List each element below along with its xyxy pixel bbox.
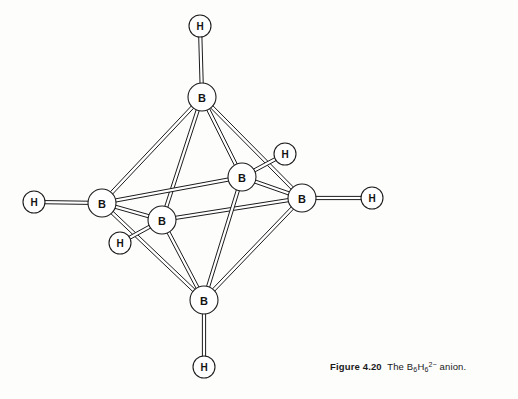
figure-number: Figure 4.20 (330, 361, 382, 372)
bond-core (208, 189, 239, 288)
bond-core (114, 206, 150, 216)
bond-core (166, 109, 198, 208)
atom-circle-b-left[interactable] (88, 189, 116, 217)
bond-edge-line (109, 105, 192, 193)
bond-core (200, 35, 201, 84)
atom-b-back[interactable]: B (228, 163, 256, 191)
atom-circle-h-top[interactable] (189, 15, 211, 37)
bond-b-bottom-b-right (212, 206, 295, 292)
bond-core (213, 207, 294, 291)
bond-b-top-b-front (164, 108, 199, 208)
atom-circle-h-left[interactable] (23, 191, 45, 213)
bond-b-top-b-left (109, 105, 194, 195)
atom-h-right[interactable]: H (361, 187, 383, 209)
atom-h-left[interactable]: H (23, 191, 45, 213)
atom-b-front[interactable]: B (148, 206, 176, 234)
atom-circle-h-right[interactable] (361, 187, 383, 209)
bond-edge-line (209, 189, 240, 288)
atom-h-bottom[interactable]: H (193, 356, 215, 378)
bond-b-left-h-left (43, 201, 89, 205)
figure-caption: Figure 4.20 The B6H62− anion. (330, 358, 516, 376)
bond-b-front-b-left (114, 205, 151, 218)
bond-b-bottom-b-back (206, 188, 240, 288)
atom-circle-b-bottom[interactable] (190, 286, 218, 314)
atom-circle-b-back[interactable] (228, 163, 256, 191)
atom-circle-b-right[interactable] (288, 184, 316, 212)
bond-edge-line (43, 204, 89, 205)
bond-edge-line (167, 109, 199, 208)
cage-bond-layer (109, 105, 294, 293)
atom-b-left[interactable]: B (88, 189, 116, 217)
figure-container: BBBBBBHHHHHH Figure 4.20 The B6H62− anio… (0, 0, 518, 399)
caption-body: The B6H62− anion. (382, 361, 467, 372)
atom-circle-h-front[interactable] (109, 232, 131, 254)
bond-edge-line (214, 208, 295, 292)
atom-b-top[interactable]: B (188, 83, 216, 111)
atom-circle-h-back[interactable] (274, 143, 296, 165)
bond-edge-line (212, 206, 293, 290)
atom-circle-b-front[interactable] (148, 206, 176, 234)
bond-b-left-b-back (114, 178, 230, 203)
bond-edge-line (253, 183, 289, 196)
atom-h-top[interactable]: H (189, 15, 211, 37)
atom-h-front[interactable]: H (109, 232, 131, 254)
atom-circle-b-top[interactable] (188, 83, 216, 111)
atom-circle-h-bottom[interactable] (193, 356, 215, 378)
caption-charge: 2− (428, 361, 436, 368)
bond-b-right-h-right (315, 196, 363, 199)
bond-edge-line (44, 201, 90, 202)
bond-core (43, 202, 89, 203)
atom-h-back[interactable]: H (274, 143, 296, 165)
bond-b-bottom-h-bottom (202, 313, 205, 358)
atom-b-right[interactable]: B (288, 184, 316, 212)
caption-tail: anion. (437, 361, 467, 372)
molecular-structure-diagram: BBBBBBHHHHHH (0, 0, 518, 399)
bond-edge-line (164, 108, 196, 207)
caption-lead: The B (387, 361, 413, 372)
atom-b-bottom[interactable]: B (190, 286, 218, 314)
bond-core (111, 106, 194, 194)
bond-edge-line (112, 107, 195, 195)
bond-b-top-h-top (199, 35, 204, 84)
